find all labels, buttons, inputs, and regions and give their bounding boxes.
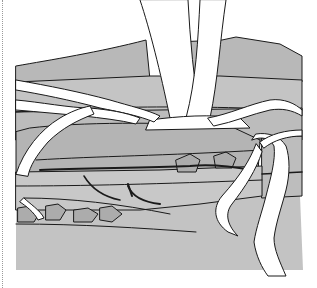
illustration-canvas — [0, 0, 317, 288]
roots-in-rock-illustration — [0, 0, 317, 288]
rock-layer-top-left — [16, 40, 150, 82]
